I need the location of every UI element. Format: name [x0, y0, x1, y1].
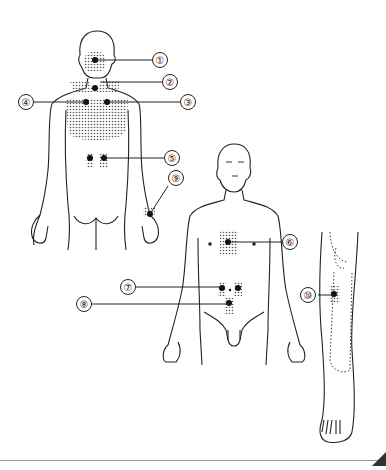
leg-figure — [320, 232, 358, 443]
label-6: ⑥ — [282, 234, 298, 250]
label-9: ⑨ — [168, 170, 184, 186]
label-5: ⑤ — [164, 150, 180, 166]
label-1: ① — [152, 52, 168, 68]
label-2: ② — [162, 74, 178, 90]
label-8: ⑧ — [76, 296, 92, 312]
page-corner-mark — [372, 452, 386, 466]
label-4: ④ — [18, 94, 34, 110]
label-7: ⑦ — [120, 279, 136, 295]
page-edge-line — [0, 460, 380, 461]
diagram-stage: ① ② ③ ④ ⑤ ⑥ ⑦ ⑧ ⑨ ⑩ — [0, 0, 386, 470]
label-3: ③ — [180, 94, 196, 110]
anatomy-diagram — [0, 0, 386, 470]
label-10: ⑩ — [300, 287, 316, 303]
